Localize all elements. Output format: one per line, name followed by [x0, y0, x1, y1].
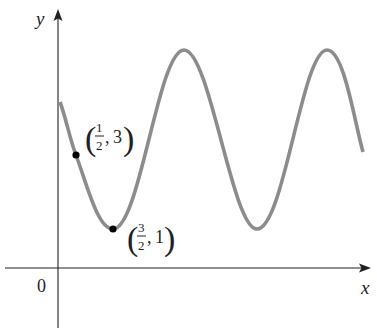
svg-text:,: , [147, 227, 152, 247]
svg-text:(: ( [127, 220, 138, 258]
point-label-three-halves-1: ( 3 2 , 1 ) [127, 220, 175, 258]
y-axis-label: y [34, 8, 45, 29]
point-half-3 [72, 151, 79, 158]
y-axis [54, 9, 63, 328]
point-label-half-3: ( 1 2 , 3 ) [85, 120, 134, 158]
svg-text:): ) [123, 120, 134, 158]
svg-text:2: 2 [138, 238, 145, 253]
svg-text:): ) [164, 220, 175, 258]
svg-text:,: , [105, 127, 110, 147]
point-three-halves-1 [109, 225, 116, 232]
sine-graph: y x 0 ( 1 2 , 3 ) ( 3 2 , 1 ) [0, 0, 377, 328]
x-axis [5, 264, 371, 273]
svg-text:2: 2 [96, 138, 103, 153]
origin-label: 0 [37, 276, 46, 296]
svg-text:3: 3 [138, 220, 145, 235]
svg-text:3: 3 [113, 127, 122, 147]
x-axis-label: x [360, 277, 370, 298]
svg-text:1: 1 [96, 120, 103, 135]
svg-text:(: ( [85, 120, 96, 158]
svg-text:1: 1 [155, 227, 164, 247]
